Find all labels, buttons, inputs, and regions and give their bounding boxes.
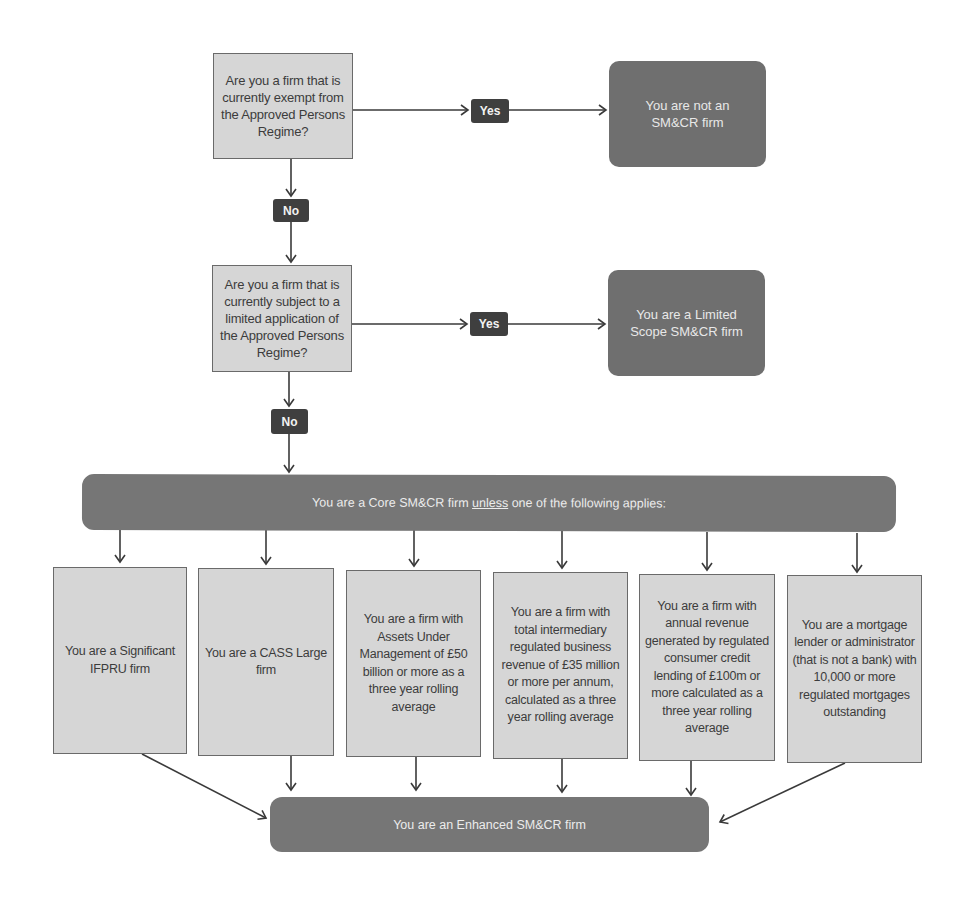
criterion-box-intermediary: You are a firm with total intermediary r… [493,572,628,759]
enhanced-result-text: You are an Enhanced SM&CR firm [393,818,586,832]
question-2-box: Are you a firm that is currently subject… [212,265,352,372]
enhanced-smcr-result: You are an Enhanced SM&CR firm [270,797,709,852]
not-smcr-result-box: You are not an SM&CR firm [609,61,766,167]
core-banner-prefix: You are a Core SM&CR firm [312,496,472,510]
limited-scope-result-box: You are a Limited Scope SM&CR firm [608,270,765,376]
yes-label: Yes [480,104,501,118]
criterion-text: You are a firm with total intermediary r… [498,604,623,727]
criterion-text: You are a mortgage lender or administrat… [792,617,917,722]
criterion-box-aum: You are a firm with Assets Under Managem… [346,570,481,757]
question-1-no-badge: No [273,199,309,222]
core-smcr-banner: You are a Core SM&CR firm unless one of … [82,474,896,532]
question-2-yes-badge: Yes [470,312,508,336]
question-1-yes-badge: Yes [471,99,509,123]
criterion-text: You are a firm with Assets Under Managem… [353,611,474,716]
criterion-text: You are a firm with annual revenue gener… [644,598,770,738]
criterion-box-consumer-credit: You are a firm with annual revenue gener… [639,574,775,761]
criterion-text: You are a Significant IFPRU firm [60,643,180,678]
question-2-text: Are you a firm that is currently subject… [219,276,345,361]
criterion-box-mortgage: You are a mortgage lender or administrat… [787,575,922,763]
result-text: You are not an SM&CR firm [627,97,748,131]
core-banner-unless: unless [472,496,508,510]
question-1-box: Are you a firm that is currently exempt … [213,53,353,159]
core-banner-suffix: one of the following applies: [508,496,666,510]
question-2-no-badge: No [271,409,308,434]
criterion-box-cass: You are a CASS Large firm [198,568,334,756]
criterion-text: You are a CASS Large firm [205,645,327,680]
no-label: No [283,204,299,218]
result-text: You are a Limited Scope SM&CR firm [626,306,747,340]
criterion-box-ifpru: You are a Significant IFPRU firm [53,567,187,754]
no-label: No [282,415,298,429]
question-1-text: Are you a firm that is currently exempt … [220,72,346,140]
yes-label: Yes [479,317,500,331]
